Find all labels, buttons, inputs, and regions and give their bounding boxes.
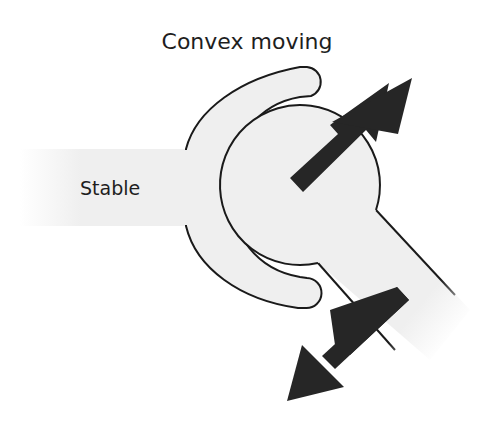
socket-join — [180, 150, 194, 225]
stable-label: Stable — [80, 177, 140, 199]
joint-diagram: Convex moving Stable — [0, 0, 481, 435]
diagram-title: Convex moving — [162, 29, 333, 54]
